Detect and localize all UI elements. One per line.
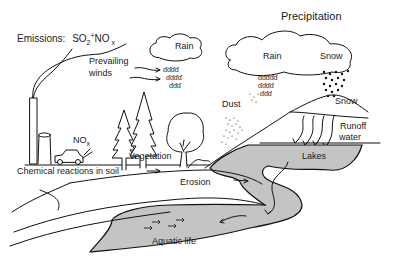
rain-right-label: Rain: [263, 52, 282, 61]
acid-rain-diagram: ɗɗɗɗ ɗɗɗɗ ɗɗɗ ɗɗɗɗɗ ɗɗɗɗ ɗɗɗ: [0, 0, 397, 267]
lakes-label: Lakes: [302, 152, 326, 161]
aquatic-life-label: Aquatic life: [152, 237, 196, 246]
deciduous-tree-icon: [167, 113, 204, 167]
water-label: water: [339, 133, 361, 142]
runoff-label: Runoff: [340, 122, 366, 131]
snow-ground-label: Snow: [335, 97, 358, 106]
car-nox-label: NOx: [73, 136, 90, 147]
svg-text:ɗɗɗɗɗ: ɗɗɗɗɗ: [258, 74, 279, 81]
rain-left-label: Rain: [175, 42, 194, 51]
smokestack-icon: [30, 98, 37, 164]
svg-text:ɗɗɗɗ: ɗɗɗɗ: [258, 82, 275, 89]
car-icon: [55, 149, 92, 165]
svg-text:ɗɗɗɗ: ɗɗɗɗ: [166, 74, 183, 81]
svg-text:ɗɗɗɗ: ɗɗɗɗ: [163, 66, 180, 73]
nox-subscript: x: [112, 39, 116, 46]
rain-drops-left: ɗɗɗɗ ɗɗɗɗ ɗɗɗ: [163, 66, 183, 89]
snow-flakes: [323, 70, 349, 97]
so2-subscript: 2: [87, 39, 91, 46]
runoff-arrows-icon: [293, 116, 334, 147]
prevailing-label: Prevailing: [89, 57, 129, 66]
cooling-tower-icon: [38, 135, 51, 164]
vegetation-label: Vegetation: [129, 152, 172, 161]
nox-text: NO: [95, 33, 110, 44]
snow-cloud-label: Snow: [320, 52, 343, 61]
car-nox-text: NO: [73, 135, 87, 145]
svg-text:ɗɗɗ: ɗɗɗ: [169, 82, 182, 89]
emissions-prefix: Emissions:: [17, 33, 65, 44]
rain-drops-right: ɗɗɗɗɗ ɗɗɗɗ ɗɗɗ: [258, 74, 279, 97]
so2-text: SO: [72, 33, 86, 44]
emissions-label: Emissions: SO2+NOx: [17, 32, 115, 46]
chemical-reactions-label: Chemical reactions in soil: [17, 167, 119, 176]
dust-label: Dust: [222, 100, 241, 109]
car-nox-subscript: x: [87, 140, 91, 147]
erosion-label: Erosion: [180, 178, 211, 187]
diagram-title: Precipitation: [281, 11, 342, 22]
winds-label: winds: [89, 69, 112, 78]
svg-text:ɗɗɗ: ɗɗɗ: [260, 90, 273, 97]
